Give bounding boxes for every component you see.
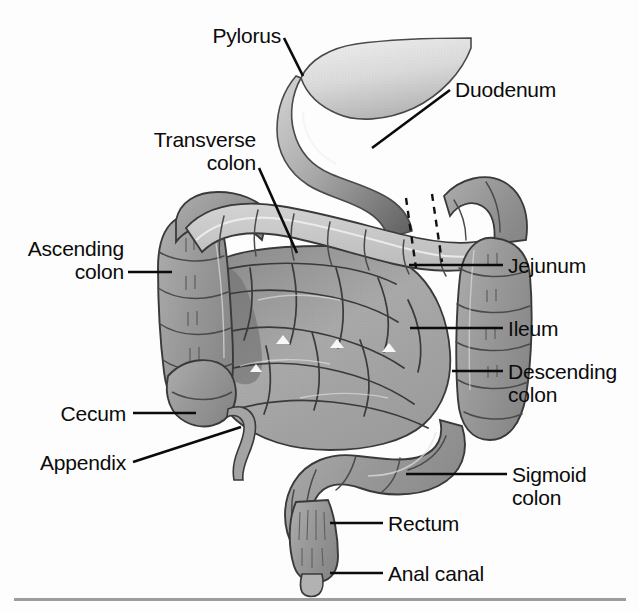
- anatomy-figure: Pylorus Duodenum Transversecolon Ascendi…: [0, 0, 638, 611]
- anal-canal-shape: [301, 574, 324, 596]
- label-ileum: Ileum: [508, 317, 558, 340]
- label-pylorus: Pylorus: [0, 24, 281, 47]
- stomach-antrum-shape: [301, 38, 471, 119]
- rectum-shape: [290, 500, 338, 582]
- label-ascending-colon: Ascendingcolon: [0, 237, 124, 283]
- label-appendix: Appendix: [0, 451, 126, 474]
- label-rectum: Rectum: [388, 512, 459, 535]
- bottom-divider-rule: [14, 598, 626, 601]
- cecum-shape: [167, 360, 236, 426]
- label-descending-colon: Descendingcolon: [508, 360, 617, 406]
- appendix-shape: [227, 407, 256, 480]
- label-cecum: Cecum: [0, 402, 126, 425]
- label-duodenum: Duodenum: [455, 78, 556, 101]
- appendix-leader: [133, 427, 241, 462]
- label-anal-canal: Anal canal: [388, 562, 484, 585]
- splenic-flexure-shape: [444, 177, 527, 244]
- pylorus-leader: [284, 38, 303, 76]
- label-sigmoid-colon: Sigmoidcolon: [512, 463, 586, 509]
- label-transverse-colon: Transversecolon: [0, 128, 256, 174]
- small-intestine-mass: [197, 246, 451, 450]
- label-jejunum: Jejunum: [508, 254, 586, 277]
